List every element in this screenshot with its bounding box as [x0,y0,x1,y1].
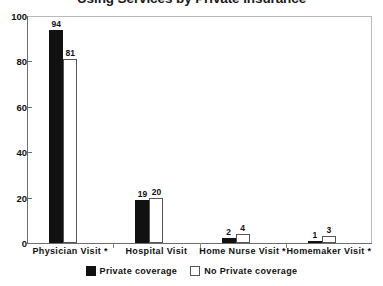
y-axis-tick-label: 100 [3,11,27,22]
bar[interactable] [236,234,250,243]
x-axis-separator-mark [113,243,114,248]
y-axis-tick-label: 80 [3,56,27,67]
legend-label: No Private coverage [204,266,297,276]
bar-value-label: 19 [138,189,147,199]
legend-item[interactable]: Private coverage [86,266,178,276]
bar[interactable] [135,200,149,243]
bar[interactable] [49,30,63,243]
bar-value-label: 1 [313,230,318,240]
bar[interactable] [322,236,336,243]
bar[interactable] [222,238,236,243]
y-axis-tick-mark [27,61,32,62]
y-axis-tick-label: 60 [3,101,27,112]
x-axis-category-label: Physician Visit * [32,246,107,256]
y-axis-tick-label: 20 [3,192,27,203]
y-axis-tick-mark [27,152,32,153]
y-axis-tick-mark [27,198,32,199]
bar-value-label: 20 [152,187,161,197]
legend-swatch-icon [86,266,96,276]
x-axis-category-label: Homemaker Visit * [286,246,371,256]
bar-value-label: 2 [226,227,231,237]
bar-value-label: 3 [327,225,332,235]
y-axis-tick-mark [27,107,32,108]
y-axis-tick-labels: 020406080100 [0,0,27,286]
chart-legend: Private coverageNo Private coverage [0,266,383,276]
plot-area [27,16,372,244]
y-axis-tick-label: 40 [3,147,27,158]
bar-value-label: 4 [240,223,245,233]
y-axis-tick-label: 0 [3,238,27,249]
y-axis-line [27,16,28,244]
bar[interactable] [149,198,163,243]
legend-item[interactable]: No Private coverage [190,266,297,276]
chart-title: Using Services by Private Insurance [0,0,383,6]
bar[interactable] [63,59,77,243]
legend-label: Private coverage [100,266,178,276]
bar-value-label: 81 [65,48,74,58]
x-axis-category-label: Hospital Visit [126,246,188,256]
bar[interactable] [308,241,322,243]
bar-value-label: 94 [51,19,60,29]
legend-swatch-icon [190,266,200,276]
x-axis-category-label: Home Nurse Visit * [199,246,286,256]
